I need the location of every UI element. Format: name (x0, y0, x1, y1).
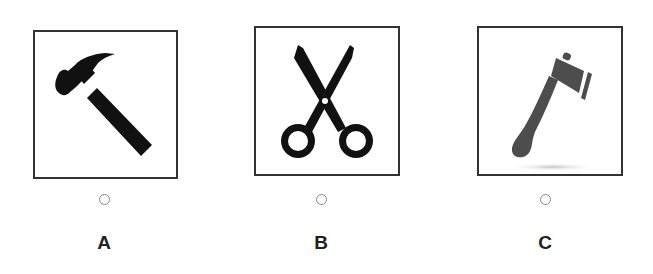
option-b-radio[interactable] (316, 194, 327, 205)
option-a-card[interactable] (33, 30, 178, 179)
option-c-card[interactable] (477, 26, 623, 176)
hammer-icon (35, 32, 176, 177)
option-c-radio[interactable] (540, 194, 551, 205)
option-b-card[interactable] (254, 26, 400, 176)
scissors-icon (256, 28, 398, 174)
option-a-label: A (89, 233, 119, 253)
option-c-label: C (530, 233, 560, 253)
option-b-label: B (306, 233, 336, 253)
axe-icon (479, 28, 621, 174)
option-a-radio[interactable] (99, 194, 110, 205)
